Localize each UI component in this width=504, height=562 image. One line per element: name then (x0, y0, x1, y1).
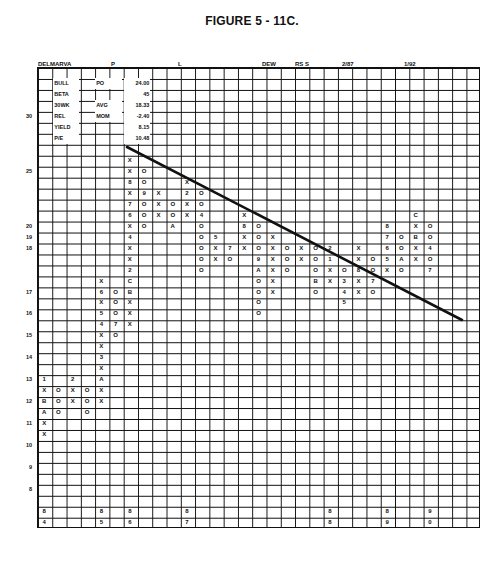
year-marker: 8 (380, 506, 394, 517)
month-marker: B (123, 287, 137, 298)
x-mark: X (266, 254, 280, 265)
x-mark: X (409, 221, 423, 232)
o-mark: O (51, 396, 65, 407)
month-marker: C (123, 276, 137, 287)
x-mark: X (123, 155, 137, 166)
stat-label: BULL (53, 78, 79, 89)
year-marker: 0 (423, 517, 437, 528)
month-marker: B (409, 232, 423, 243)
x-mark: X (123, 221, 137, 232)
o-mark: O (251, 232, 265, 243)
o-mark: O (108, 297, 122, 308)
o-mark: O (251, 243, 265, 254)
x-mark: X (123, 166, 137, 177)
o-mark: O (280, 265, 294, 276)
y-axis-label: 16 (10, 308, 32, 319)
o-mark: O (80, 407, 94, 418)
month-marker: 5 (208, 232, 222, 243)
o-mark: O (108, 287, 122, 298)
y-axis-label: 9 (10, 462, 32, 473)
x-mark: X (94, 330, 108, 341)
y-axis-label: 14 (10, 352, 32, 363)
o-mark: O (366, 287, 380, 298)
stat-value: 18.33 (124, 100, 151, 111)
y-axis-label: 15 (10, 330, 32, 341)
y-axis-label: 18 (10, 243, 32, 254)
x-mark: X (323, 276, 337, 287)
y-axis-label: 17 (10, 287, 32, 298)
x-mark: X (266, 265, 280, 276)
y-axis-label: 20 (10, 221, 32, 232)
month-marker: A (251, 265, 265, 276)
o-mark: O (423, 254, 437, 265)
year-marker: 7 (180, 517, 194, 528)
x-mark: X (151, 199, 165, 210)
o-mark: O (51, 385, 65, 396)
month-marker: 1 (323, 254, 337, 265)
o-mark: O (423, 232, 437, 243)
o-mark: O (166, 199, 180, 210)
month-marker: A (166, 221, 180, 232)
o-mark: O (251, 221, 265, 232)
o-mark: O (309, 265, 323, 276)
x-mark: X (151, 210, 165, 221)
stat-key: MOM (95, 111, 122, 122)
o-mark: O (194, 232, 208, 243)
o-mark: O (394, 265, 408, 276)
year-marker: 6 (123, 517, 137, 528)
x-mark: X (351, 276, 365, 287)
o-mark: O (251, 276, 265, 287)
month-marker: 5 (94, 308, 108, 319)
y-axis-label: 19 (10, 232, 32, 243)
o-mark: O (251, 297, 265, 308)
o-mark: O (394, 232, 408, 243)
o-mark: O (309, 243, 323, 254)
month-marker: 8 (380, 221, 394, 232)
month-marker: 5 (337, 297, 351, 308)
x-mark: X (266, 243, 280, 254)
o-mark: O (223, 254, 237, 265)
o-mark: O (394, 243, 408, 254)
y-axis-label: 25 (10, 166, 32, 177)
x-mark: X (208, 254, 222, 265)
o-mark: O (337, 265, 351, 276)
month-marker: 8 (123, 177, 137, 188)
stat-value: 8.15 (124, 122, 151, 133)
o-mark: O (80, 396, 94, 407)
x-mark: X (37, 418, 51, 429)
o-mark: O (366, 254, 380, 265)
x-mark: X (409, 243, 423, 254)
o-mark: O (194, 188, 208, 199)
x-mark: X (94, 363, 108, 374)
month-marker: 4 (194, 210, 208, 221)
month-marker: 7 (108, 319, 122, 330)
o-mark: O (309, 254, 323, 265)
x-mark: X (123, 319, 137, 330)
x-mark: X (37, 429, 51, 440)
month-marker: 6 (123, 210, 137, 221)
o-mark: O (194, 265, 208, 276)
x-mark: X (237, 232, 251, 243)
year-marker: 8 (323, 506, 337, 517)
month-marker: 2 (123, 265, 137, 276)
x-mark: X (294, 254, 308, 265)
o-mark: O (166, 210, 180, 221)
o-mark: O (137, 210, 151, 221)
o-mark: O (251, 287, 265, 298)
x-mark: X (123, 308, 137, 319)
y-axis-label: 30 (10, 111, 32, 122)
o-mark: O (51, 407, 65, 418)
month-marker: A (394, 254, 408, 265)
o-mark: O (280, 243, 294, 254)
month-marker: 4 (423, 243, 437, 254)
x-mark: X (151, 188, 165, 199)
x-mark: X (323, 265, 337, 276)
month-marker: 6 (380, 243, 394, 254)
x-mark: X (66, 385, 80, 396)
year-marker: 8 (123, 506, 137, 517)
month-marker: 3 (94, 352, 108, 363)
stat-label: REL (53, 111, 79, 122)
year-marker: 8 (323, 517, 337, 528)
month-marker: 7 (123, 199, 137, 210)
x-mark: X (123, 243, 137, 254)
